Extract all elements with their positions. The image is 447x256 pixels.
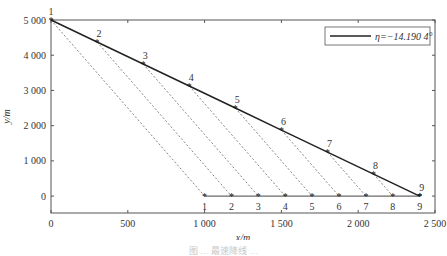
star-marker: * [390,191,395,202]
x-tick-label: 2 000 [347,218,370,229]
ground-point-label: 1 [202,201,207,212]
point-label: 8 [373,160,378,171]
y-tick-label: 0 [41,191,46,202]
star-marker: * [417,191,422,202]
star-marker: * [202,191,207,202]
ground-point-label: 8 [390,201,395,212]
x-axis-label: x/m [235,232,250,240]
point-label: 7 [327,138,332,149]
ground-point-label: 3 [256,201,261,212]
x-tick-label: 0 [49,218,54,229]
y-tick-label: 5 000 [24,15,47,26]
x-tick-label: 2 500 [424,218,447,229]
point-label: 2 [97,28,102,39]
dashed-connector [143,64,258,196]
legend-label: η=−14.190 4° [375,31,432,42]
ground-point-label: 7 [363,201,368,212]
y-tick-label: 3 000 [24,85,47,96]
dashed-connector [97,42,231,196]
x-tick-label: 500 [120,218,135,229]
y-tick-label: 1 000 [24,155,47,166]
dashed-connector [327,152,365,196]
ground-point-label: 4 [283,201,288,212]
point-label: 3 [143,50,148,61]
figure-caption: 图 … 最速降线 … [0,244,447,256]
y-axis-label: y/m [1,109,12,124]
point-label: 4 [189,72,194,83]
plot-frame [51,20,435,213]
star-marker: * [229,191,234,202]
star-marker: * [363,191,368,202]
star-marker: * [283,191,288,202]
star-marker: * [310,191,315,202]
point-label: 5 [235,94,240,105]
ground-point-label: 6 [337,201,342,212]
point-label: 1 [49,6,54,17]
point-label: 6 [281,116,286,127]
x-tick-label: 1 500 [270,218,293,229]
ground-point-label: 5 [310,201,315,212]
ground-point-label: 9 [417,201,422,212]
y-tick-label: 4 000 [24,50,47,61]
chart: 05001 0001 5002 0002 50001 0002 0003 000… [0,0,447,240]
star-marker: * [337,191,342,202]
star-marker: * [256,191,261,202]
y-tick-label: 2 000 [24,120,47,131]
x-tick-label: 1 000 [193,218,216,229]
ground-point-label: 2 [229,201,234,212]
